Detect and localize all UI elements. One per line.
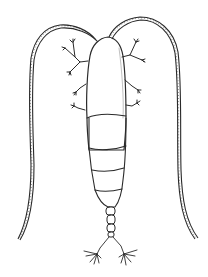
left-appendages	[62, 39, 88, 110]
body-segments	[89, 118, 126, 207]
urosome	[106, 207, 115, 237]
prosome	[87, 37, 126, 150]
copepod-illustration	[0, 0, 208, 277]
left-antennule	[18, 25, 98, 240]
furca	[84, 237, 137, 265]
right-antennule	[109, 17, 198, 239]
